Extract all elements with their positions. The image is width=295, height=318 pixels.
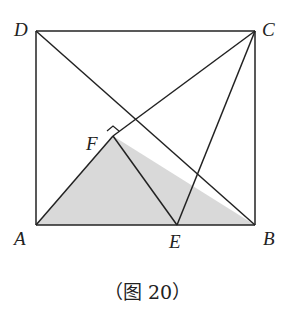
right-angle-mark	[107, 126, 119, 131]
label-d: D	[13, 19, 28, 40]
label-c: C	[262, 19, 275, 40]
label-b: B	[263, 228, 275, 249]
label-a: A	[12, 228, 26, 249]
geometry-figure: D C A B E F	[0, 0, 295, 318]
label-f: F	[85, 133, 98, 154]
figure-caption: （图 20）	[0, 277, 295, 304]
label-e: E	[168, 231, 181, 252]
